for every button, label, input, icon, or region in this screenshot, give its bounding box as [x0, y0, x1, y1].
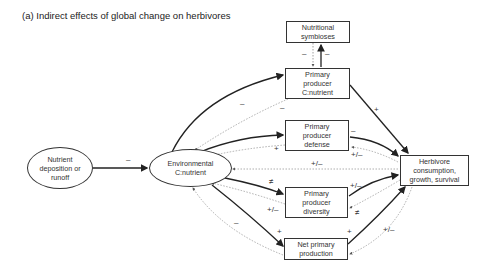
- node-pp-cnutrient: Primary producer C:nutrient: [285, 68, 350, 99]
- label-sym-down: –: [302, 50, 306, 58]
- label-div-env: +/–: [267, 206, 278, 214]
- node-environmental-cnutrient: Environmental C:nutrient: [149, 149, 232, 187]
- label-env-cn: –: [240, 100, 244, 108]
- edge-env-def: [200, 135, 283, 152]
- label-herb-def: +/–: [351, 151, 362, 159]
- label-div-herb: +/–: [350, 182, 361, 190]
- label-sym-up: –: [325, 50, 329, 58]
- node-herbivore: Herbivore consumption, growth, survival: [400, 155, 469, 186]
- label-env-def: +: [274, 145, 279, 153]
- label-npp-herb: +: [347, 228, 352, 236]
- node-pp-defense: Primary producer defense: [285, 120, 349, 151]
- node-pp-diversity: Primary producer diversity: [285, 187, 348, 218]
- label-cn-herb: +: [374, 106, 379, 114]
- edge-env-cn: [172, 75, 283, 152]
- label-npp-env: –: [234, 219, 238, 227]
- label-herb-env: +/–: [383, 226, 394, 234]
- node-net-primary-production: Net primary production: [284, 238, 348, 260]
- edge-env-div: [225, 178, 283, 194]
- label-env-div: ≠: [269, 178, 273, 186]
- edge-env-npp: [212, 185, 283, 246]
- label-env-npp: +: [277, 228, 282, 236]
- label-herb-div: ≠: [355, 209, 359, 217]
- edge-herb-npp: [350, 187, 412, 254]
- edge-cn-herb: [350, 85, 408, 153]
- label-cn-env: –: [280, 104, 284, 112]
- label-env-herb: +/–: [311, 160, 322, 168]
- node-nutrient-deposition: Nutrient deposition or runoff: [27, 147, 93, 189]
- node-nutritional-symbioses: Nutritional symbioses: [286, 21, 350, 43]
- edge-layer: [0, 0, 491, 277]
- label-def-herb: –: [351, 127, 355, 135]
- label-nutrient-env: –: [126, 156, 130, 164]
